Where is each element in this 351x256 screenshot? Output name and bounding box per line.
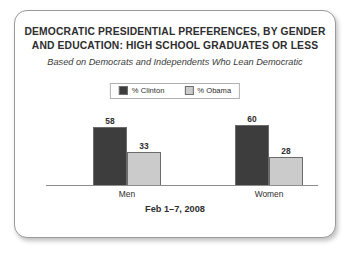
category-label-men: Men [87, 189, 167, 199]
category-label-women: Women [229, 189, 309, 199]
bar-wrap-men-clinton: 58 [93, 127, 127, 185]
bar-wrap-women-clinton: 60 [235, 125, 269, 185]
chart-card: DEMOCRATIC PRESIDENTIAL PREFERENCES, BY … [14, 10, 336, 238]
chart-legend: % Clinton % Obama [110, 83, 240, 99]
chart-subtitle: Based on Democrats and Independents Who … [15, 56, 335, 68]
bar-value-men-clinton: 58 [93, 116, 127, 126]
axis-baseline [46, 185, 318, 186]
page-title-line-2: AND EDUCATION: HIGH SCHOOL GRADUATES OR … [15, 39, 335, 53]
plot-area: 58 33 60 28 Men Women [29, 111, 323, 186]
legend-swatch-icon-obama [184, 86, 193, 95]
legend-swatch-icon-clinton [119, 86, 128, 95]
page-title-line-1: DEMOCRATIC PRESIDENTIAL PREFERENCES, BY … [15, 25, 335, 39]
chart-footnote: Feb 1–7, 2008 [15, 204, 335, 214]
bar-value-women-clinton: 60 [235, 114, 269, 124]
legend-item-clinton: % Clinton [119, 86, 165, 95]
legend-label-clinton: % Clinton [132, 86, 165, 95]
chart-title-block: DEMOCRATIC PRESIDENTIAL PREFERENCES, BY … [15, 25, 335, 68]
bar-men-obama [127, 152, 161, 185]
bar-group-men: 58 33 [93, 127, 161, 185]
bar-wrap-women-obama: 28 [269, 157, 303, 185]
chart-page: DEMOCRATIC PRESIDENTIAL PREFERENCES, BY … [0, 0, 351, 256]
bar-group-women: 60 28 [235, 125, 303, 185]
bar-women-clinton [235, 125, 269, 185]
bar-women-obama [269, 157, 303, 185]
bar-value-men-obama: 33 [127, 141, 161, 151]
bar-wrap-men-obama: 33 [127, 152, 161, 185]
legend-item-obama: % Obama [184, 86, 231, 95]
bar-men-clinton [93, 127, 127, 185]
bar-value-women-obama: 28 [269, 146, 303, 156]
legend-label-obama: % Obama [197, 86, 231, 95]
